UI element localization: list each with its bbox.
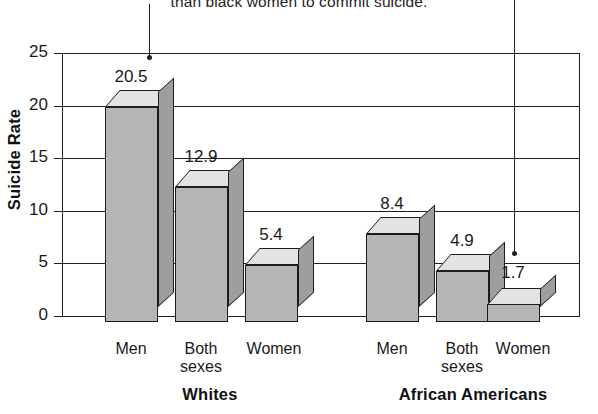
- bar-african-americans-men: [366, 217, 435, 322]
- x-label-whites-both-line2: sexes: [166, 358, 236, 376]
- bar-side-face: [158, 78, 174, 307]
- bar-value-african-americans-women: 1.7: [477, 263, 549, 283]
- group-label-whites: Whites: [150, 385, 270, 404]
- plot-right-border: [579, 53, 580, 317]
- y-tick-5: [54, 263, 63, 264]
- bar-african-americans-women: [487, 288, 556, 322]
- bar-value-whites-men: 20.5: [95, 67, 167, 87]
- bar-front-face: [245, 265, 298, 322]
- y-axis-title: Suicide Rate: [5, 80, 24, 240]
- y-tick-10: [54, 211, 63, 212]
- x-label-whites-both-line1: Both: [166, 340, 236, 358]
- bar-whites-both: [175, 170, 244, 322]
- y-tick-label-0: 0: [4, 305, 48, 325]
- leader-line-african-americans-women: [514, 0, 515, 253]
- x-label-whites-men: Men: [96, 340, 166, 358]
- y-tick-25: [54, 53, 63, 54]
- bar-value-whites-both: 12.9: [165, 147, 237, 167]
- bar-value-african-americans-both: 4.9: [426, 231, 498, 251]
- group-label-african-americans: African Americans: [378, 385, 568, 404]
- x-label-african-americans-women: Women: [483, 340, 563, 358]
- y-tick-15: [54, 158, 63, 159]
- bar-front-face: [366, 234, 419, 322]
- x-label-african-americans-both-line2: sexes: [427, 358, 497, 376]
- bar-whites-women: [245, 248, 314, 322]
- bar-front-face: [175, 187, 228, 322]
- y-tick-20: [54, 106, 63, 107]
- bar-side-face: [419, 205, 435, 307]
- bar-value-african-americans-men: 8.4: [356, 194, 428, 214]
- figure-caption: than black women to commit suicide.: [0, 0, 598, 11]
- leader-dot-african-americans-women: [512, 251, 517, 256]
- bar-front-face: [105, 107, 158, 322]
- y-tick-0: [54, 316, 63, 317]
- y-axis-line: [62, 53, 63, 317]
- y-tick-label-5: 5: [4, 252, 48, 272]
- leader-line-whites-men: [149, 4, 150, 57]
- x-label-african-americans-men: Men: [357, 340, 427, 358]
- bar-front-face: [487, 304, 540, 322]
- leader-dot-whites-men: [147, 55, 152, 60]
- bar-whites-men: [105, 90, 174, 322]
- suicide-rate-bar-chart-figure: than black women to commit suicide. 25 2…: [0, 0, 598, 414]
- bar-side-face: [298, 236, 314, 307]
- x-label-whites-women: Women: [234, 340, 314, 358]
- gridline-25: [62, 53, 580, 54]
- y-tick-label-25: 25: [4, 42, 48, 62]
- bar-value-whites-women: 5.4: [235, 225, 307, 245]
